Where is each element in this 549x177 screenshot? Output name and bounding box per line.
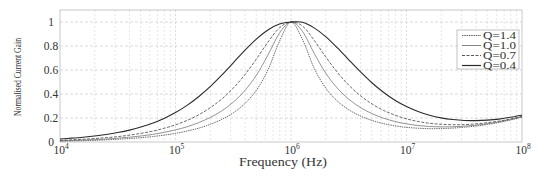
chart-figure: 00.20.40.60.81 104105106107108 Frequency… (0, 0, 549, 177)
y-tick-label: 0.8 (44, 40, 59, 52)
y-axis-title: Normalised Current Gain (12, 38, 23, 116)
y-tick-label: 0.6 (44, 64, 59, 76)
legend-label: Q=0.4 (483, 60, 516, 71)
y-tick-label: 1 (48, 16, 54, 28)
x-axis-title: Frequency (Hz) (239, 155, 327, 169)
y-tick-label: 0.4 (44, 88, 59, 100)
legend: Q=1.4Q=1.0Q=0.7Q=0.4 (457, 30, 519, 71)
y-tick-label: 0.2 (44, 112, 59, 124)
line-chart: 00.20.40.60.81 104105106107108 Frequency… (0, 0, 549, 177)
